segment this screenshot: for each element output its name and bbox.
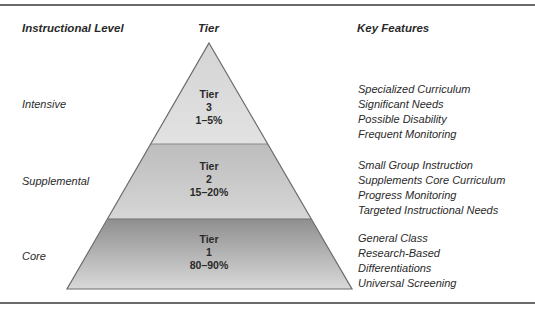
- tier-2-title: Tier: [169, 160, 249, 173]
- tier-3-percent: 1–5%: [169, 114, 249, 127]
- feature-item: Targeted Instructional Needs: [358, 203, 505, 218]
- features-tier-1: General Class Research-Based Differentia…: [358, 231, 456, 291]
- feature-item: Small Group Instruction: [358, 158, 505, 173]
- feature-item: Possible Disability: [358, 112, 471, 127]
- tier-2-number: 2: [169, 173, 249, 186]
- tier-2-percent: 15–20%: [169, 186, 249, 199]
- features-tier-3: Specialized Curriculum Significant Needs…: [358, 82, 471, 142]
- feature-item: Specialized Curriculum: [358, 82, 471, 97]
- features-tier-2: Small Group Instruction Supplements Core…: [358, 158, 505, 218]
- feature-item: Universal Screening: [358, 276, 456, 291]
- feature-item: Progress Monitoring: [358, 188, 505, 203]
- feature-item: Differentiations: [358, 261, 456, 276]
- feature-item: Supplements Core Curriculum: [358, 173, 505, 188]
- tier-1-label: Tier 1 80–90%: [169, 233, 249, 272]
- level-core: Core: [22, 250, 46, 262]
- tier-3-label: Tier 3 1–5%: [169, 88, 249, 127]
- tier-2-label: Tier 2 15–20%: [169, 160, 249, 199]
- feature-item: Frequent Monitoring: [358, 127, 471, 142]
- feature-item: Research-Based: [358, 246, 456, 261]
- level-supplemental: Supplemental: [22, 175, 89, 187]
- level-intensive: Intensive: [22, 98, 66, 110]
- tier-3-number: 3: [169, 101, 249, 114]
- bottom-rule: [0, 302, 535, 304]
- feature-item: General Class: [358, 231, 456, 246]
- feature-item: Significant Needs: [358, 97, 471, 112]
- tier-1-percent: 80–90%: [169, 259, 249, 272]
- tier-1-number: 1: [169, 246, 249, 259]
- tier-1-title: Tier: [169, 233, 249, 246]
- tier-3-title: Tier: [169, 88, 249, 101]
